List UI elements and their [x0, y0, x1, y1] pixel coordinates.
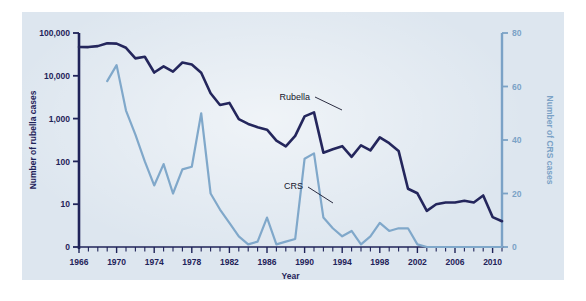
x-axis-tick-label: 1978 [182, 257, 201, 267]
x-axis-tick-label: 1998 [370, 257, 389, 267]
y-axis-left-tick-label: 100,000 [39, 28, 70, 38]
rubella-annotation-label: Rubella [279, 92, 310, 102]
x-axis-tick-label: 2006 [446, 257, 465, 267]
y-axis-left-tick-label: 0 [65, 242, 70, 252]
x-axis-tick-label: 2002 [408, 257, 427, 267]
crs-annotation-label: CRS [284, 181, 303, 191]
y-axis-left-tick-label: 1,000 [49, 114, 71, 124]
y-axis-left-tick-label: 100 [56, 157, 70, 167]
y-axis-left-tick-label: 10 [61, 199, 71, 209]
x-axis-tick-label: 1970 [107, 257, 126, 267]
x-axis-tick-label: 1986 [258, 257, 277, 267]
x-axis-tick-label: 2010 [483, 257, 502, 267]
x-axis-tick-label: 1974 [145, 257, 164, 267]
y-axis-right-tick-label: 20 [512, 189, 522, 199]
series-line-rubella[interactable] [79, 43, 502, 221]
x-axis-title: Year [282, 271, 301, 281]
rubella-annotation-leader [315, 97, 342, 110]
y-axis-left-title: Number of rubella cases [28, 90, 38, 189]
y-axis-right-title: Number of CRS cases [545, 96, 555, 185]
y-axis-right-tick-label: 60 [512, 82, 522, 92]
chart-canvas: 0101001,00010,000100,0000204060801966197… [0, 0, 586, 301]
y-axis-right-tick-label: 80 [512, 28, 522, 38]
x-axis-tick-label: 1990 [295, 257, 314, 267]
x-axis-tick-label: 1982 [220, 257, 239, 267]
x-axis-tick-label: 1966 [70, 257, 89, 267]
y-axis-right-tick-label: 40 [512, 135, 522, 145]
x-axis-tick-label: 1994 [333, 257, 352, 267]
figure-rubella-crs: 0101001,00010,000100,0000204060801966197… [0, 0, 586, 301]
y-axis-right-tick-label: 0 [512, 242, 517, 252]
y-axis-left-tick-label: 10,000 [44, 71, 70, 81]
